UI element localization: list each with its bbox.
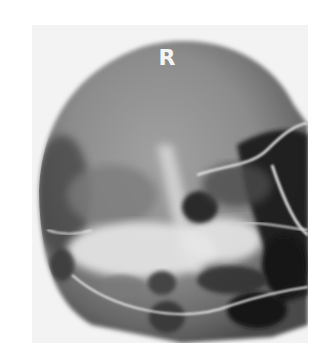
side-marker-label: R [152, 45, 182, 70]
radiograph-film: R [32, 25, 308, 343]
skull-xray-image [32, 25, 308, 343]
